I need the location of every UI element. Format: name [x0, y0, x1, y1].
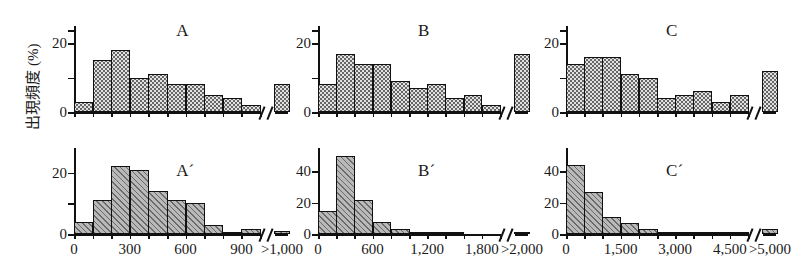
axis-break-icon — [261, 228, 275, 242]
x-tick — [730, 234, 732, 239]
histogram-bar — [223, 232, 242, 234]
y-tick — [68, 203, 74, 205]
y-tick-label: 0 — [552, 105, 560, 120]
histogram-bar — [639, 78, 658, 112]
x-tick — [657, 234, 659, 239]
x-axis-line — [318, 112, 528, 114]
histogram-bar — [602, 57, 621, 112]
x-axis-line — [566, 234, 776, 236]
histogram-bar — [712, 232, 731, 234]
y-tick — [68, 78, 74, 80]
histogram-bar — [693, 232, 712, 234]
histogram-bar — [204, 225, 223, 234]
panel-title: C´ — [666, 162, 683, 179]
histogram-panel-c-prime: 0204001,5003,0004,500>5,000C´ — [566, 148, 788, 272]
histogram-bar — [730, 95, 749, 112]
histogram-bar — [409, 232, 428, 234]
histogram-bar — [730, 232, 749, 234]
histogram-panel-b-prime: 0204006001,2001,800>2,000B´ — [318, 148, 540, 272]
x-tick — [409, 112, 411, 117]
x-tick — [427, 234, 429, 239]
y-tick-label: 20 — [296, 36, 311, 51]
histogram-bar — [373, 64, 392, 112]
x-tick — [621, 112, 623, 117]
x-tick — [167, 112, 169, 117]
histogram-bar — [762, 71, 778, 112]
x-tick — [482, 234, 484, 239]
x-tick-label: 300 — [119, 242, 142, 257]
histogram-panel-a-prime: 0200300600900>1,000A´ — [74, 148, 300, 272]
x-tick-label: 900 — [230, 242, 253, 257]
histogram-bar — [391, 81, 410, 112]
histogram-bar — [657, 98, 676, 112]
histogram-bar — [621, 74, 640, 112]
panel-title: C — [666, 22, 677, 39]
x-tick — [130, 112, 132, 117]
x-tick — [241, 234, 243, 239]
x-tick — [445, 234, 447, 239]
x-tick — [223, 234, 225, 239]
x-tick-label: 3,000 — [658, 242, 692, 257]
histogram-bar — [621, 223, 640, 234]
x-tick — [354, 112, 356, 117]
y-tick-label: 0 — [60, 227, 68, 242]
x-tick — [111, 234, 113, 239]
x-tick-label: 0 — [562, 242, 570, 257]
x-tick — [657, 112, 659, 117]
x-tick-label: 600 — [361, 242, 384, 257]
x-tick-label: 1,500 — [604, 242, 638, 257]
x-tick — [167, 234, 169, 239]
y-tick — [68, 30, 74, 32]
y-tick-label: 20 — [544, 36, 559, 51]
y-tick — [312, 203, 318, 205]
y-tick-label: 20 — [52, 165, 67, 180]
x-tick — [639, 234, 641, 239]
x-tick — [602, 112, 604, 117]
histogram-bar — [445, 232, 464, 234]
histogram-bar — [223, 98, 242, 112]
x-tick — [464, 234, 466, 239]
y-tick-label: 40 — [544, 164, 559, 179]
histogram-bar — [354, 200, 373, 234]
x-tick — [693, 112, 695, 117]
y-tick — [312, 78, 318, 80]
x-axis-line — [74, 112, 288, 114]
x-tick — [445, 112, 447, 117]
histogram-bar — [712, 102, 731, 112]
axis-break-icon — [261, 106, 275, 120]
histogram-bar — [111, 166, 130, 234]
x-tick — [675, 112, 677, 117]
y-tick — [312, 30, 318, 32]
axis-break-icon — [501, 106, 515, 120]
histogram-bar — [464, 95, 483, 112]
histogram-bar — [675, 232, 694, 234]
axis-break-icon — [749, 228, 763, 242]
x-tick — [566, 234, 568, 239]
x-axis-line — [318, 234, 528, 236]
histogram-bar — [409, 88, 428, 112]
y-tick — [312, 171, 318, 173]
x-tick — [204, 234, 206, 239]
y-tick — [68, 43, 74, 45]
axis-break-icon — [749, 106, 763, 120]
x-tick-label: 1,200 — [410, 242, 444, 257]
x-tick — [427, 112, 429, 117]
histogram-bar — [204, 95, 223, 112]
x-tick — [693, 234, 695, 239]
y-tick-label: 0 — [304, 227, 312, 242]
x-tick — [204, 112, 206, 117]
histogram-bar — [167, 84, 186, 112]
x-tick — [391, 234, 393, 239]
plot-area: 020A — [74, 26, 260, 112]
x-overflow-label: >2,000 — [501, 242, 543, 257]
x-tick-label: 4,500 — [713, 242, 747, 257]
x-tick — [584, 234, 586, 239]
y-tick-label: 40 — [296, 164, 311, 179]
histogram-bar — [274, 231, 290, 234]
y-tick — [68, 173, 74, 175]
histogram-bar — [427, 84, 446, 112]
x-tick-label: 0 — [70, 242, 78, 257]
histogram-bar — [657, 232, 676, 234]
y-tick-label: 0 — [552, 227, 560, 242]
histogram-bar — [74, 102, 93, 112]
